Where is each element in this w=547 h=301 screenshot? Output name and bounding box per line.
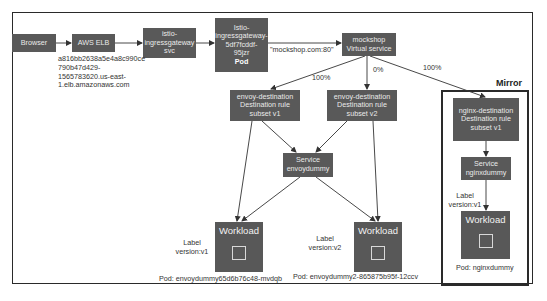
pod-name-v2: Pod: envoydummy2-865875b95f-12ccv — [293, 273, 418, 282]
service-envoydummy-line2: envoydummy — [287, 165, 330, 174]
label-v2-line2: version:v2 — [303, 244, 347, 253]
envoy-destination-v2-node: envoy-destination Destination rule subse… — [327, 90, 397, 121]
mockshop-virtual-service-node: mockshop Virtual service — [342, 33, 396, 56]
label-version-v1: Label version:v1 — [170, 239, 214, 257]
traffic-percent-mirror: 100% — [423, 64, 441, 73]
workload-container-icon — [232, 246, 246, 260]
label-version-nginx: Label version:v1 — [443, 192, 487, 210]
aws-elb-node: AWS ELB — [72, 34, 115, 52]
traffic-percent-v1: 100% — [312, 74, 330, 83]
label-v1-line2: version:v1 — [170, 248, 214, 257]
aws-elb-label: AWS ELB — [78, 39, 110, 48]
pod-name-nginx: Pod: nginxdummy — [456, 264, 514, 273]
host-label: "mockshop.com:80" — [270, 46, 333, 55]
ingressgateway-svc-node: istio- ingressgateway svc — [143, 28, 196, 58]
workload-container-icon — [371, 246, 385, 260]
browser-node: Browser — [12, 34, 56, 52]
workload-nginx-title: Workload — [461, 214, 510, 225]
ingressgateway-pod-node: Istio- ingressgateway- 5df7fcddf- 95jzr … — [215, 18, 268, 72]
nginx-destination-node: nginx-destination Destination rule subse… — [453, 98, 519, 141]
elb-hostname: a816bb2638a5e4a8c990ce 790b47d429- 15657… — [58, 55, 145, 90]
label-version-v2: Label version:v2 — [303, 235, 347, 253]
service-nginxdummy-node: Service nginxdummy — [461, 157, 511, 180]
workload-v1-title: Workload — [215, 225, 263, 236]
service-envoydummy-node: Service envoydummy — [283, 153, 333, 177]
label-nginx-line2: version:v1 — [443, 201, 487, 210]
envoy-dest-v2-line3: subset v2 — [347, 110, 378, 119]
browser-label: Browser — [21, 39, 47, 48]
ingress-pod-line5: Pod — [235, 58, 249, 67]
workload-v1-node: Workload — [215, 222, 263, 272]
service-nginxdummy-line2: nginxdummy — [466, 169, 507, 178]
nginx-dest-line3: subset v1 — [471, 124, 502, 133]
pod-name-v1: Pod: envoydummy65d6b76c48-mvdqb — [159, 275, 282, 284]
elb-hostname-line4: 1.elb.amazonaws.com — [58, 81, 145, 90]
workload-v2-title: Workload — [354, 225, 402, 236]
ingress-svc-line3: svc — [164, 47, 175, 56]
mockshop-line2: Virtual service — [346, 45, 391, 54]
workload-container-icon — [479, 234, 493, 248]
envoy-dest-v1-line3: subset v1 — [250, 110, 281, 119]
workload-nginx-node: Workload — [461, 211, 510, 259]
traffic-percent-v2: 0% — [373, 66, 383, 75]
workload-v2-node: Workload — [354, 222, 402, 272]
envoy-destination-v1-node: envoy-destination Destination rule subse… — [230, 90, 300, 121]
